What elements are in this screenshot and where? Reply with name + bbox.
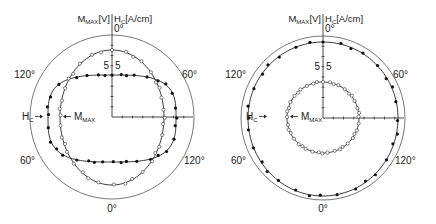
data-point-filled (157, 154, 160, 157)
series-label-hc: HC (246, 111, 258, 123)
data-point-filled (103, 74, 106, 77)
data-point-filled (361, 51, 364, 54)
data-point-filled (49, 95, 52, 98)
data-point-filled (364, 179, 367, 182)
data-point-open (90, 53, 93, 56)
data-point-filled (391, 85, 394, 88)
data-point-filled (61, 154, 64, 157)
data-point-open (312, 82, 315, 85)
data-point-open (162, 122, 165, 125)
data-point-filled (374, 173, 377, 176)
data-point-filled (319, 194, 322, 197)
data-point-open (315, 80, 318, 83)
data-point-filled (277, 179, 280, 182)
angle-label-lower-left: 60° (20, 155, 35, 166)
series-label-mmax: MMAX (301, 111, 322, 123)
data-point-open (67, 77, 70, 80)
angle-label-upper-left: 120° (14, 69, 35, 80)
data-point-filled (252, 146, 255, 149)
data-point-open (350, 94, 353, 97)
data-point-filled (266, 63, 269, 66)
data-point-open (297, 143, 300, 146)
data-point-open (304, 147, 307, 150)
data-point-open (358, 111, 361, 114)
data-point-open (292, 137, 295, 140)
data-point-filled (396, 119, 399, 122)
data-point-filled (47, 126, 50, 129)
data-point-filled (47, 113, 50, 116)
scale-label-hc: 5 (326, 61, 332, 72)
data-point-filled (354, 187, 357, 190)
data-point-filled (49, 141, 52, 144)
data-point-open (355, 129, 358, 132)
data-point-filled (261, 73, 264, 76)
data-point-filled (46, 105, 49, 108)
data-point-open (329, 81, 332, 84)
data-point-filled (97, 73, 100, 76)
data-point-open (301, 145, 304, 148)
data-point-filled (261, 160, 264, 163)
data-point-open (65, 150, 68, 153)
data-point-open (161, 133, 164, 136)
data-point-filled (172, 138, 175, 141)
data-point-open (357, 115, 360, 118)
data-point-filled (110, 73, 113, 76)
data-point-open (341, 145, 344, 148)
data-point-open (343, 88, 346, 91)
data-point-open (287, 107, 290, 110)
data-point-open (338, 148, 341, 151)
data-point-filled (376, 64, 379, 67)
arrow-icon (40, 115, 43, 119)
angle-label-lower-right: 120° (184, 155, 205, 166)
data-point-open (321, 80, 324, 83)
data-point-filled (55, 147, 58, 150)
data-point-filled (85, 74, 88, 77)
data-point-open (63, 142, 66, 145)
data-point-filled (321, 40, 324, 43)
data-point-filled (246, 105, 249, 108)
data-point-filled (120, 73, 123, 76)
data-point-open (311, 150, 314, 153)
data-point-filled (294, 188, 297, 191)
data-point-open (100, 51, 103, 54)
angle-label-upper-right: 60° (393, 69, 408, 80)
data-point-open (357, 122, 360, 125)
data-point-open (332, 83, 335, 86)
data-point-filled (75, 76, 78, 79)
angle-label-top: 0° (114, 23, 124, 34)
data-point-filled (112, 160, 115, 163)
data-point-open (356, 107, 359, 110)
arrow-icon (264, 115, 267, 119)
angle-label-bottom: 0° (318, 203, 328, 214)
data-point-filled (125, 160, 128, 163)
data-point-open (60, 136, 63, 139)
data-point-filled (252, 87, 255, 90)
data-point-filled (165, 150, 168, 153)
data-point-open (333, 149, 336, 152)
angle-label-bottom: 0° (107, 203, 117, 214)
data-point-open (78, 62, 81, 65)
data-point-filled (101, 160, 104, 163)
scale-label-mmax: 5 (314, 61, 320, 72)
data-point-filled (133, 74, 136, 77)
data-point-filled (174, 124, 177, 127)
data-point-filled (171, 92, 174, 95)
angle-label-upper-right: 60° (182, 69, 197, 80)
data-point-filled (278, 55, 281, 58)
data-point-open (140, 60, 143, 63)
data-point-open (97, 181, 100, 184)
data-point-open (317, 151, 320, 154)
data-point-open (158, 145, 161, 148)
data-point-open (58, 107, 61, 110)
data-point-open (289, 101, 292, 104)
data-point-open (154, 81, 157, 84)
axis-label-mmax: MMAX[V] (288, 13, 321, 25)
data-point-filled (87, 159, 90, 162)
data-point-filled (308, 41, 311, 44)
data-point-filled (135, 160, 138, 163)
data-point-filled (385, 158, 388, 161)
data-point-filled (385, 77, 388, 80)
data-point-filled (247, 128, 250, 131)
data-point-open (286, 123, 289, 126)
data-point-open (286, 110, 289, 113)
